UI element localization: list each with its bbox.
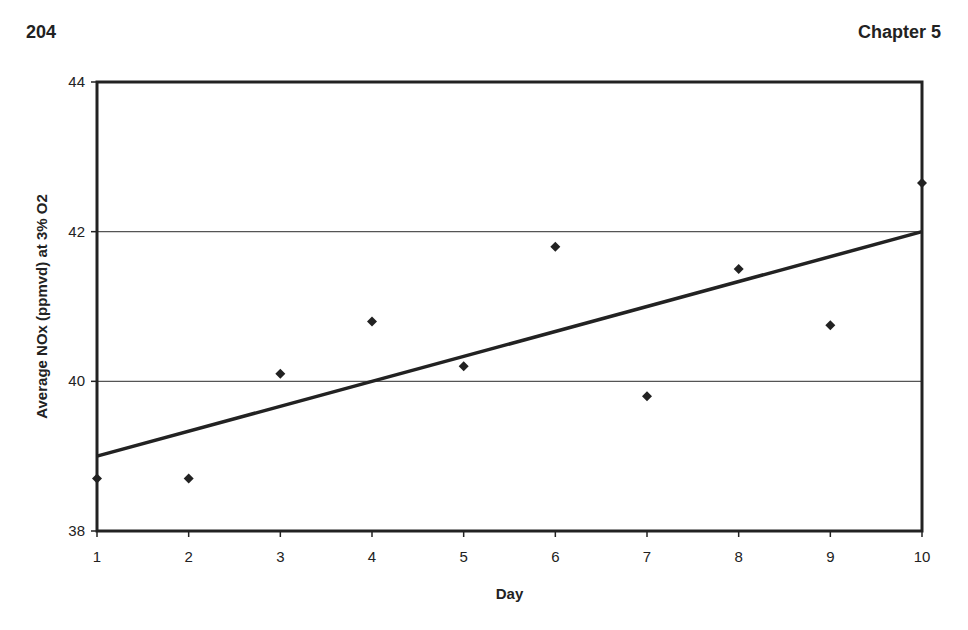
data-point-marker: [917, 178, 927, 188]
plot-area-border: [97, 82, 922, 531]
y-axis-title: Average NOx (ppmvd) at 3% O2: [33, 194, 50, 419]
scatter-chart: 3840424412345678910DayAverage NOx (ppmvd…: [0, 0, 968, 630]
x-tick-label: 5: [459, 548, 467, 565]
data-point-marker: [275, 369, 285, 379]
y-tick-label: 42: [68, 223, 85, 240]
x-tick-label: 10: [914, 548, 931, 565]
data-point-marker: [92, 474, 102, 484]
x-tick-label: 8: [734, 548, 742, 565]
x-tick-label: 1: [93, 548, 101, 565]
y-tick-label: 40: [68, 372, 85, 389]
x-tick-label: 9: [826, 548, 834, 565]
x-tick-label: 4: [368, 548, 376, 565]
data-point-marker: [734, 264, 744, 274]
data-point-marker: [184, 474, 194, 484]
y-tick-label: 44: [68, 73, 85, 90]
data-point-marker: [459, 361, 469, 371]
x-axis-title: Day: [496, 585, 524, 602]
y-tick-label: 38: [68, 522, 85, 539]
trend-line: [97, 232, 922, 456]
x-tick-label: 3: [276, 548, 284, 565]
x-tick-label: 7: [643, 548, 651, 565]
data-point-marker: [367, 316, 377, 326]
data-point-marker: [825, 320, 835, 330]
data-point-marker: [642, 391, 652, 401]
x-tick-label: 2: [184, 548, 192, 565]
x-tick-label: 6: [551, 548, 559, 565]
data-point-marker: [550, 242, 560, 252]
